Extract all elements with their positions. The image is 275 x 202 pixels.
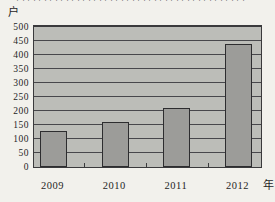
cropped-caption-line: 口口口口口口口口口口口口口口口口口口口口口 [16, 0, 264, 4]
y-tick-label-400: 400 [0, 50, 29, 60]
x-tick-label-2011: 2011 [156, 179, 196, 192]
bar-chart-figure: 口口口口口口口口口口口口口口口口口口口口口 户 0501001502002503… [0, 0, 275, 202]
x-tick-label-2012: 2012 [218, 179, 258, 192]
bar-2012 [225, 44, 252, 167]
bar-2010 [102, 122, 129, 167]
y-tick-label-350: 350 [0, 64, 29, 74]
y-tick-label-50: 50 [0, 148, 29, 158]
x-axis-tick [146, 163, 147, 168]
x-axis-unit-label: 年 [261, 179, 275, 192]
bar-2011 [163, 108, 190, 167]
cropped-caption-text: 口口口口口口口口口口口口口口口口口口口口口 [16, 0, 264, 3]
y-tick-label-450: 450 [0, 36, 29, 46]
y-tick-label-200: 200 [0, 106, 29, 116]
y-tick-label-0: 0 [0, 162, 29, 172]
gridline-450 [34, 40, 261, 41]
y-axis-unit-label: 户 [8, 6, 19, 19]
plot-area [33, 25, 262, 168]
y-tick-label-300: 300 [0, 78, 29, 88]
x-tick-label-2009: 2009 [33, 179, 73, 192]
x-tick-label-2010: 2010 [94, 179, 134, 192]
y-tick-label-500: 500 [0, 22, 29, 32]
y-tick-label-100: 100 [0, 134, 29, 144]
y-tick-label-250: 250 [0, 92, 29, 102]
bar-2009 [40, 131, 67, 167]
y-tick-label-150: 150 [0, 120, 29, 130]
x-axis-tick [84, 163, 85, 168]
x-axis-tick [208, 163, 209, 168]
